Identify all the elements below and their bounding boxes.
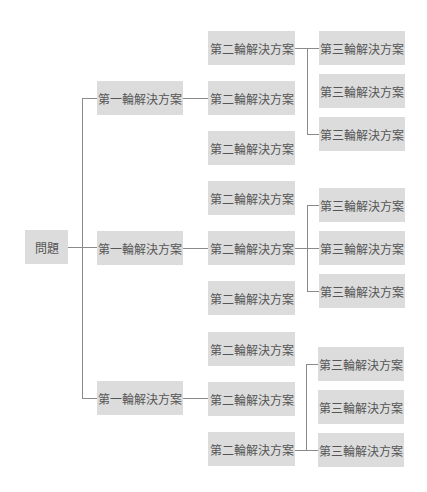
level3-node-3-1: 第三輪解決方案 [318, 347, 404, 381]
level3-node-2-1: 第三輪解決方案 [319, 188, 405, 222]
connector-l3-group1-vertical [307, 48, 308, 135]
connector-l1-1-to-l2 [183, 98, 208, 99]
connector-level1-1 [82, 98, 97, 99]
level3-node-1-2: 第三輪解決方案 [319, 74, 405, 108]
level3-node-3-2: 第三輪解決方案 [318, 390, 404, 424]
connector-l3-group2-vertical [307, 205, 308, 292]
level2-node-1-1: 第二輪解決方案 [208, 31, 295, 65]
connector-trunk-level1 [82, 98, 83, 399]
level2-node-2-1: 第二輪解決方案 [208, 181, 295, 215]
level3-node-1-1: 第三輪解決方案 [319, 31, 405, 65]
level3-node-1-3: 第三輪解決方案 [319, 117, 405, 151]
connector-l2-3-out [295, 450, 319, 451]
level3-node-2-3: 第三輪解決方案 [319, 274, 405, 308]
level2-node-1-2: 第二輪解決方案 [208, 81, 295, 115]
tree-diagram: 問題 第一輪解決方案 第一輪解決方案 第一輪解決方案 第二輪解決方案 第二輪解決… [0, 0, 427, 492]
root-node-problem: 問題 [25, 230, 68, 264]
connector-l3-2-1 [307, 205, 319, 206]
connector-l1-2-to-l2 [183, 248, 208, 249]
connector-level1-3 [82, 398, 97, 399]
connector-l1-3-to-l2 [183, 398, 208, 399]
level2-node-1-3: 第二輪解決方案 [208, 131, 295, 165]
level2-node-3-1: 第二輪解決方案 [208, 332, 295, 366]
level1-node-3: 第一輪解決方案 [97, 381, 183, 415]
level1-node-2: 第一輪解決方案 [97, 231, 183, 265]
level2-node-2-3: 第二輪解決方案 [208, 281, 295, 315]
connector-l3-group3-vertical [306, 364, 307, 451]
level3-node-3-3: 第三輪解決方案 [318, 433, 404, 467]
connector-l3-2-3 [307, 291, 319, 292]
level2-node-2-2: 第二輪解決方案 [208, 231, 295, 265]
level2-node-3-3: 第二輪解決方案 [208, 432, 295, 466]
level3-node-2-2: 第三輪解決方案 [319, 231, 405, 265]
connector-l3-1-3 [307, 134, 319, 135]
level2-node-3-2: 第二輪解決方案 [208, 382, 295, 416]
level1-node-1: 第一輪解決方案 [97, 81, 183, 115]
